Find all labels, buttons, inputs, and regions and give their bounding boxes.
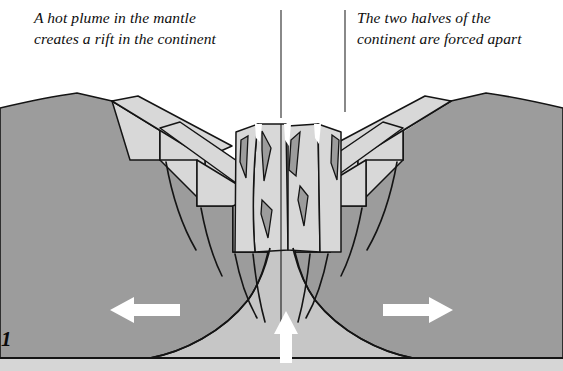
caption-left-line1: A hot plume in the mantle bbox=[34, 8, 216, 29]
figure-container: A hot plume in the mantle creates a rift… bbox=[0, 0, 563, 371]
rift-cross-section-diagram bbox=[0, 0, 563, 371]
central-rift-block-left bbox=[253, 124, 288, 252]
figure-number-label: 1 bbox=[1, 327, 12, 352]
caption-left: A hot plume in the mantle creates a rift… bbox=[34, 8, 216, 50]
caption-right-line2: continent are forced apart bbox=[357, 29, 522, 50]
caption-left-line2: creates a rift in the continent bbox=[34, 29, 216, 50]
caption-right: The two halves of the continent are forc… bbox=[357, 8, 522, 50]
caption-right-line1: The two halves of the bbox=[357, 8, 522, 29]
